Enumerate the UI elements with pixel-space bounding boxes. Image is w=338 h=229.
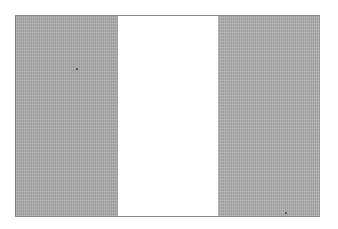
scan-speck — [285, 212, 287, 214]
flag-band-left — [15, 16, 118, 216]
scan-speck — [76, 68, 78, 70]
flag-band-middle — [118, 16, 218, 216]
flag-band-right — [218, 16, 320, 216]
flag — [15, 15, 320, 217]
